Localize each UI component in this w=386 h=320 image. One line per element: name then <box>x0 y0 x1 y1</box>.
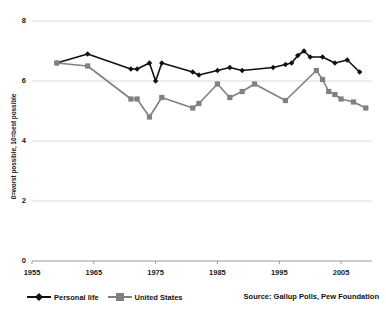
data-point <box>252 81 257 86</box>
data-point <box>196 72 201 77</box>
data-point <box>320 77 325 82</box>
data-point <box>338 96 343 101</box>
data-point <box>283 62 288 67</box>
source-note: Source: Gallup Polls, Pew Foundation <box>244 292 379 301</box>
data-point <box>190 105 195 110</box>
legend-swatch-diamond-icon <box>27 292 51 302</box>
data-point <box>153 78 158 83</box>
data-point <box>54 60 59 65</box>
legend-item-personal-life[interactable]: Personal life <box>27 292 99 302</box>
data-point <box>239 68 244 73</box>
y-axis-tick-label: 6 <box>10 76 26 85</box>
data-point <box>128 96 133 101</box>
y-axis-tick-label: 8 <box>10 16 26 25</box>
data-point <box>190 69 195 74</box>
data-point <box>320 54 325 59</box>
data-point <box>147 114 152 119</box>
data-point <box>283 98 288 103</box>
data-point <box>215 81 220 86</box>
data-point <box>85 51 90 56</box>
data-point <box>363 105 368 110</box>
legend-item-united-states[interactable]: United States <box>108 292 183 302</box>
series-united-states <box>54 60 368 119</box>
data-point <box>159 60 164 65</box>
x-axis-tick-label: 1955 <box>12 268 52 277</box>
data-point <box>240 89 245 94</box>
data-point <box>314 68 319 73</box>
data-point <box>332 92 337 97</box>
legend-label-united-states: United States <box>135 293 183 302</box>
y-axis-tick-label: 2 <box>10 196 26 205</box>
data-point <box>159 95 164 100</box>
series-line <box>57 63 366 117</box>
data-point <box>128 66 133 71</box>
chart-legend: Personal life United States <box>27 292 183 302</box>
data-point <box>196 101 201 106</box>
data-point <box>270 65 275 70</box>
y-axis-tick-label: 0 <box>10 256 26 265</box>
data-point <box>227 95 232 100</box>
legend-label-personal-life: Personal life <box>54 293 99 302</box>
x-axis-tick-label: 2005 <box>321 268 361 277</box>
x-axis-tick-label: 1985 <box>197 268 237 277</box>
x-axis-tick-label: 1965 <box>74 268 114 277</box>
data-point <box>134 96 139 101</box>
data-point <box>85 63 90 68</box>
x-axis-tick-label: 1995 <box>259 268 299 277</box>
legend-swatch-square-icon <box>108 292 132 302</box>
data-point <box>332 60 337 65</box>
data-point <box>215 68 220 73</box>
data-point <box>227 65 232 70</box>
data-point <box>326 89 331 94</box>
y-axis-tick-label: 4 <box>10 136 26 145</box>
data-point <box>134 66 139 71</box>
x-axis-tick-label: 1975 <box>136 268 176 277</box>
data-point <box>351 99 356 104</box>
data-point <box>147 60 152 65</box>
series-personal-life <box>54 48 362 83</box>
chart-container: 0=worst possible, 10=best possible Perso… <box>0 0 386 320</box>
